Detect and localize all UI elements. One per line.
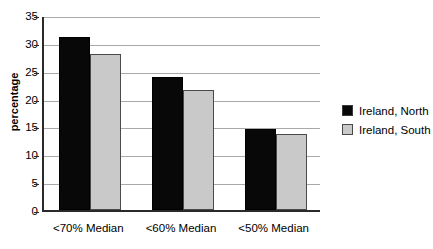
- bar: [90, 54, 121, 210]
- legend-item: Ireland, South: [342, 120, 431, 139]
- bar-chart: percentage 05101520253035 <70% Median<60…: [0, 0, 433, 249]
- x-axis-tick-label: <50% Median: [227, 222, 320, 234]
- legend: Ireland, North Ireland, South: [342, 101, 431, 139]
- y-axis-tick-mark: [34, 101, 39, 102]
- bar: [276, 134, 307, 210]
- y-axis-ticks: 05101520253035: [0, 17, 38, 212]
- bar-group: [137, 17, 230, 210]
- y-axis-tick-mark: [34, 73, 39, 74]
- x-axis-tick-label: <60% Median: [135, 222, 228, 234]
- y-axis-tick-mark: [34, 128, 39, 129]
- y-axis-tick-mark: [34, 17, 39, 18]
- legend-item: Ireland, North: [342, 101, 431, 120]
- legend-item-label: Ireland, North: [359, 105, 429, 117]
- bar: [152, 77, 183, 210]
- legend-swatch-icon: [342, 105, 353, 116]
- y-axis-tick-mark: [34, 45, 39, 46]
- y-axis-tick-mark: [34, 156, 39, 157]
- plot-area: [42, 17, 320, 212]
- legend-item-label: Ireland, South: [359, 124, 431, 136]
- y-axis-tick-mark: [34, 212, 39, 213]
- x-axis-tick-label: <70% Median: [42, 222, 135, 234]
- bar: [245, 129, 276, 210]
- bar: [183, 90, 214, 210]
- bar-group: [229, 17, 322, 210]
- y-axis-tick-mark: [34, 184, 39, 185]
- bar-group: [44, 17, 137, 210]
- bar: [59, 37, 90, 210]
- legend-swatch-icon: [342, 124, 353, 135]
